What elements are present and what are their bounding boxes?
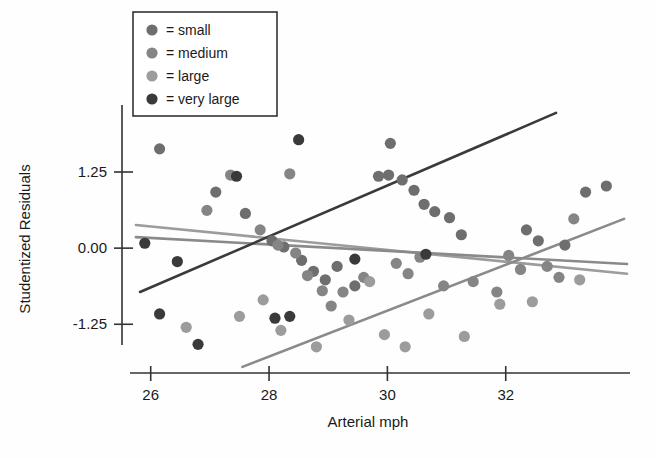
data-point-medium (272, 239, 283, 250)
data-point-small (521, 224, 532, 235)
data-point-medium (553, 272, 564, 283)
data-point-medium (317, 285, 328, 296)
data-point-small (240, 208, 251, 219)
data-point-small (456, 229, 467, 240)
data-point-very-large (172, 256, 183, 267)
legend-marker-medium (146, 47, 157, 58)
legend-label-0: = small (166, 22, 211, 38)
data-point-small (154, 143, 165, 154)
data-point-very-large (231, 171, 242, 182)
trend-line-very-large (140, 113, 556, 292)
data-point-large (364, 276, 375, 287)
data-point-large (234, 311, 245, 322)
legend-marker-small (146, 24, 157, 35)
data-point-medium (337, 286, 348, 297)
data-point-small (373, 171, 384, 182)
data-point-small (533, 235, 544, 246)
data-point-large (379, 329, 390, 340)
data-point-large (494, 299, 505, 310)
data-point-very-large (139, 238, 150, 249)
data-point-medium (403, 268, 414, 279)
data-point-large (311, 341, 322, 352)
x-tick-label: 28 (261, 386, 278, 403)
data-point-large (343, 314, 354, 325)
data-point-medium (438, 280, 449, 291)
legend-marker-large (146, 70, 157, 81)
data-point-medium (284, 168, 295, 179)
data-point-very-large (269, 313, 280, 324)
legend-label-2: = large (166, 68, 209, 84)
data-point-small (559, 239, 570, 250)
data-point-small (418, 199, 429, 210)
data-point-large (181, 322, 192, 333)
data-point-very-large (154, 308, 165, 319)
data-point-small (444, 212, 455, 223)
trend-line-medium (136, 237, 627, 264)
data-point-medium (515, 264, 526, 275)
data-point-medium (503, 250, 514, 261)
data-point-large (527, 296, 538, 307)
data-point-small (385, 138, 396, 149)
data-point-small (383, 169, 394, 180)
data-point-very-large (284, 311, 295, 322)
x-axis-title: Arterial mph (328, 413, 409, 430)
data-point-medium (568, 213, 579, 224)
legend-label-3: = very large (166, 91, 240, 107)
data-point-large (258, 294, 269, 305)
data-point-large (400, 341, 411, 352)
x-tick-label: 30 (379, 386, 396, 403)
y-axis-title: Studentized Residuals (16, 164, 33, 313)
x-tick-label: 26 (142, 386, 159, 403)
data-point-medium (302, 270, 313, 281)
legend-label-1: = medium (166, 45, 228, 61)
data-point-medium (255, 224, 266, 235)
scatter-plot-figure: 262830321.250.00-1.25Arterial mphStudent… (0, 0, 656, 458)
data-point-small (580, 187, 591, 198)
data-point-very-large (293, 134, 304, 145)
data-point-small (320, 274, 331, 285)
data-point-small (349, 280, 360, 291)
data-point-medium (468, 276, 479, 287)
data-point-medium (491, 286, 502, 297)
data-point-medium (391, 258, 402, 269)
data-point-very-large (420, 249, 431, 260)
data-point-large (275, 325, 286, 336)
data-point-small (397, 174, 408, 185)
data-point-medium (326, 300, 337, 311)
data-point-small (601, 180, 612, 191)
data-point-medium (201, 205, 212, 216)
data-point-very-large (192, 339, 203, 350)
chart-canvas: 262830321.250.00-1.25Arterial mphStudent… (0, 0, 656, 458)
y-tick-label: -1.25 (73, 315, 107, 332)
legend-marker-very-large (146, 93, 157, 104)
y-tick-label: 1.25 (78, 163, 107, 180)
data-point-medium (542, 261, 553, 272)
data-point-small (210, 187, 221, 198)
data-point-small (429, 206, 440, 217)
data-point-medium (290, 247, 301, 258)
y-tick-label: 0.00 (78, 239, 107, 256)
data-point-small (408, 185, 419, 196)
data-point-large (459, 331, 470, 342)
data-point-large (423, 308, 434, 319)
data-point-small (332, 261, 343, 272)
data-point-large (574, 274, 585, 285)
data-point-very-large (349, 254, 360, 265)
x-tick-label: 32 (497, 386, 514, 403)
